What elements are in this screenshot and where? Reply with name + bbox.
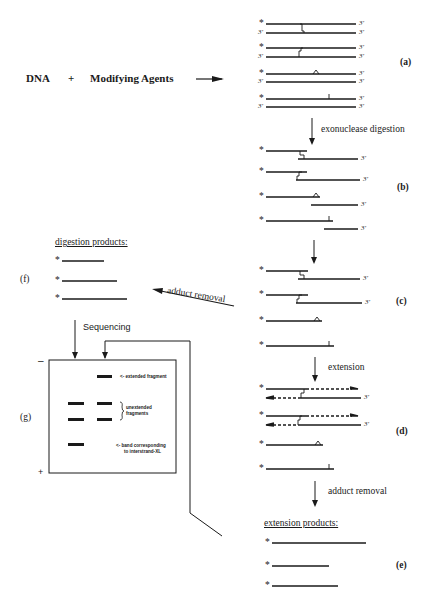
digestion-products-lines [62,261,127,299]
extended-fragment-annotation: <- extended fragment [120,374,167,380]
duplex-group-b [266,151,360,229]
step-label-d: (d) [396,426,408,436]
step-label-c: (c) [396,296,407,306]
xl-band-annotation-line1: <- band corresponding [116,443,166,449]
modifying-agents-label: Modifying Agents [90,72,173,84]
sequencing-label: Sequencing [83,322,131,332]
plus-sign: + [68,72,74,84]
adduct-removal-label-e: adduct removal [328,486,387,496]
duplex-group-c [266,271,362,346]
gel-minus-pole: – [38,355,44,366]
unextended-annotation-line2: fragments [126,411,148,417]
duplex-group-a [266,24,356,107]
step-label-e: (e) [396,560,407,570]
step-label-g: (g) [20,412,31,422]
extension-products-heading: extension products: [264,518,338,528]
dna-label: DNA [26,72,50,84]
title-arrow [196,76,224,82]
extension-products-lines [272,543,366,586]
exonuclease-digestion-label: exonuclease digestion [321,124,405,134]
step-label-b: (b) [397,182,409,192]
duplex-group-d [266,387,361,469]
gel-plus-pole: + [38,467,43,477]
dna-adduct-assay-diagram [0,0,427,610]
step-label-a: (a) [400,57,411,67]
gel-bands [68,375,112,446]
extension-label: extension [328,362,364,372]
unextended-annotation-line1: unextended [126,405,152,411]
step-label-f: (f) [20,274,30,284]
digestion-products-heading: digestion products: [55,237,128,247]
xl-band-annotation-line2: to interstrand-XL [124,449,161,455]
